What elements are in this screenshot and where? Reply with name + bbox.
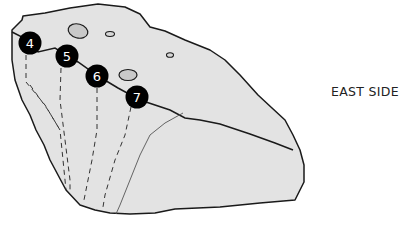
route-marker-6[interactable]: 6 xyxy=(86,65,109,88)
hold-small-top xyxy=(106,32,115,37)
hold-small-right xyxy=(167,53,174,58)
route-marker-4[interactable]: 4 xyxy=(19,32,42,55)
route-number-4: 4 xyxy=(26,36,34,51)
route-marker-5[interactable]: 5 xyxy=(56,45,79,68)
side-label: EAST SIDE xyxy=(331,84,399,99)
route-number-6: 6 xyxy=(93,69,101,84)
route-marker-7[interactable]: 7 xyxy=(126,86,149,109)
boulder-diagram: 4 5 6 7 xyxy=(0,0,419,226)
hold-mid xyxy=(119,70,137,81)
boulder-outline xyxy=(12,4,304,214)
route-number-5: 5 xyxy=(63,49,71,64)
route-number-7: 7 xyxy=(133,90,141,105)
